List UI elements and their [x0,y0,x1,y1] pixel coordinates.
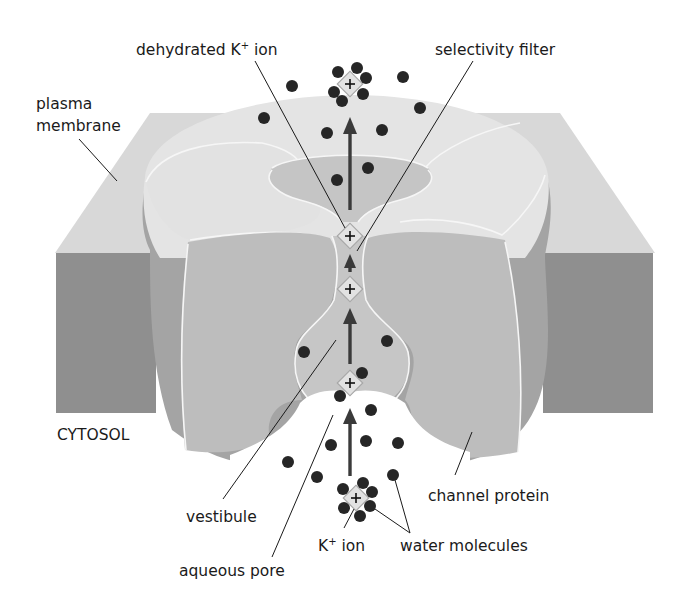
label-aqueous-pore: aqueous pore [179,562,285,580]
label-dehydrated-ion: dehydrated K+ ion [136,40,278,59]
leader-water-2 [375,509,410,533]
label-plasma-membrane-line1: plasma [36,95,92,113]
label-channel-protein: channel protein [428,487,549,505]
label-vestibule: vestibule [186,508,257,526]
potassium-channel-diagram: dehydrated K+ ion selectivity filter pla… [0,0,685,608]
label-k-ion: K+ ion [318,536,365,555]
label-water-molecules: water molecules [400,537,528,555]
leader-plasma-membrane [79,139,117,181]
label-selectivity-filter: selectivity filter [435,41,556,59]
label-cytosol: CYTOSOL [57,426,130,444]
membrane-left-side [56,253,156,413]
label-plasma-membrane-line2: membrane [36,117,121,135]
leader-water-1 [395,480,410,533]
membrane-right-side [543,253,653,413]
